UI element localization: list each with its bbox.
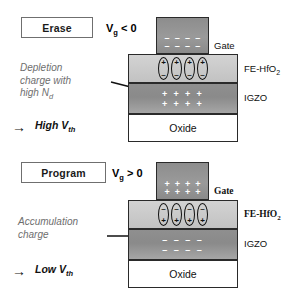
conclusion-program: → Low Vth [12,263,73,278]
annotation-erase-text: Depletion charge with high N [20,62,71,98]
dipole-top-sign: – [200,205,204,212]
dipole-icon: + – [184,57,195,80]
dipole-top-sign: – [161,205,165,212]
layer-label-text: Oxide [169,268,196,280]
dipole-bottom-sign: + [200,217,205,224]
mode-label-box-erase: Erase [21,17,93,38]
charge-mark: – [162,237,167,244]
layer-label-text: Gate [214,40,235,51]
dipole-icon: – + [158,203,169,226]
charge-mark: – [174,237,179,244]
dipole-bottom-sign: + [187,217,192,224]
bias-subscript: g [113,28,118,37]
igzo-layer-label-erase: IGZO [244,92,267,103]
charge-mark: – [197,247,202,254]
charge-mark: + [175,189,180,196]
charge-mark: – [185,43,190,50]
dipole-top-sign: – [187,205,191,212]
ferroelectric-dipoles-program: – + – + – + – + [158,203,208,226]
gate-bias-label-program: Vg > 0 [112,167,143,182]
dipole-top-sign: + [200,59,205,66]
charge-mark: – [165,43,170,50]
charge-mark: + [162,91,167,98]
igzo-charges-erase: + + + + + + + + [159,89,205,110]
bias-relation: < 0 [121,22,137,34]
charge-mark: – [175,43,180,50]
panel-erase: Erase Vg < 0 Depletion charge with high … [0,0,303,148]
annotation-program-text: Accumulation charge [18,216,78,240]
gate-layer-erase: – – – – – – – – [156,17,209,54]
layer-label-text: Gate [214,186,234,196]
layer-label-subscript: 2 [277,214,281,222]
gate-bias-label-erase: Vg < 0 [106,22,137,37]
dipole-icon: – + [184,203,195,226]
conclusion-erase-text: High Vth [35,119,75,134]
panel-program: Program Vg > 0 Accumulation charge → Low… [0,150,303,298]
dipole-top-sign: + [174,59,179,66]
gate-charges-program: + + + + + + + + [162,180,203,196]
dipole-bottom-sign: + [174,217,179,224]
gate-layer-program: + + + + + + + + [156,162,209,200]
gate-charges-erase: – – – – – – – – [162,34,203,50]
charge-mark: + [164,189,169,196]
annotation-program: Accumulation charge [18,216,118,245]
layer-label-subscript: 2 [276,69,280,76]
dipole-bottom-sign: – [187,71,191,78]
mode-label-erase: Erase [42,22,72,34]
charge-mark: + [197,101,202,108]
conclusion-erase: → High Vth [12,119,75,134]
fe-hfo2-layer-erase: + – + – + – + – [128,54,238,83]
conclusion-program-subscript: th [66,269,73,278]
dipole-top-sign: + [161,59,166,66]
layer-label-text: IGZO [244,92,267,103]
fe-hfo2-layer-label-program: FE-HfO2 [244,209,281,222]
charge-mark: + [185,189,190,196]
charge-mark: – [185,247,190,254]
charge-mark: + [185,91,190,98]
oxide-layer-program: Oxide [128,260,238,288]
figure-canvas: Erase Vg < 0 Depletion charge with high … [0,0,303,298]
dipole-bottom-sign: – [174,71,178,78]
dipole-icon: + – [158,57,169,80]
charge-mark: + [185,101,190,108]
dipole-bottom-sign: + [161,217,166,224]
charge-mark: – [185,237,190,244]
dipole-icon: – + [171,203,182,226]
dipole-icon: + – [197,57,208,80]
charge-mark: + [174,91,179,98]
charge-mark: – [197,237,202,244]
conclusion-program-text: Low Vth [35,263,73,278]
right-arrow-icon: → [12,266,26,276]
charge-mark: + [197,91,202,98]
bias-relation: > 0 [127,167,143,179]
charge-mark: + [174,101,179,108]
igzo-layer-label-program: IGZO [244,238,267,249]
annotation-erase-subscript: d [49,92,53,101]
mode-label-program: Program [41,167,86,179]
layer-label-text: IGZO [244,238,267,249]
dipole-bottom-sign: – [161,71,165,78]
conclusion-erase-subscript: th [68,125,75,134]
charge-mark: – [174,247,179,254]
bias-subscript: g [119,173,124,182]
conclusion-erase-label: High V [35,119,68,131]
charge-mark: – [195,43,200,50]
oxide-layer-label-program: Oxide [129,268,237,280]
annotation-erase: Depletion charge with high Nd [20,62,112,104]
igzo-layer-program: – – – – – – – – [128,229,238,260]
oxide-layer-erase: Oxide [128,114,238,142]
layer-label-text: Oxide [169,122,196,134]
dipole-top-sign: + [187,59,192,66]
dipole-top-sign: – [174,205,178,212]
dipole-bottom-sign: – [200,71,204,78]
dipole-icon: – + [197,203,208,226]
gate-layer-label-erase: Gate [214,40,235,51]
oxide-layer-label-erase: Oxide [129,122,237,134]
layer-label-text: FE-HfO [244,63,276,74]
charge-mark: + [162,101,167,108]
igzo-charges-program: – – – – – – – – [159,235,205,256]
layer-label-text: FE-HfO [244,209,277,219]
right-arrow-icon: → [12,122,26,132]
mode-label-box-program: Program [21,162,106,183]
fe-hfo2-layer-program: – + – + – + – + [128,200,238,229]
